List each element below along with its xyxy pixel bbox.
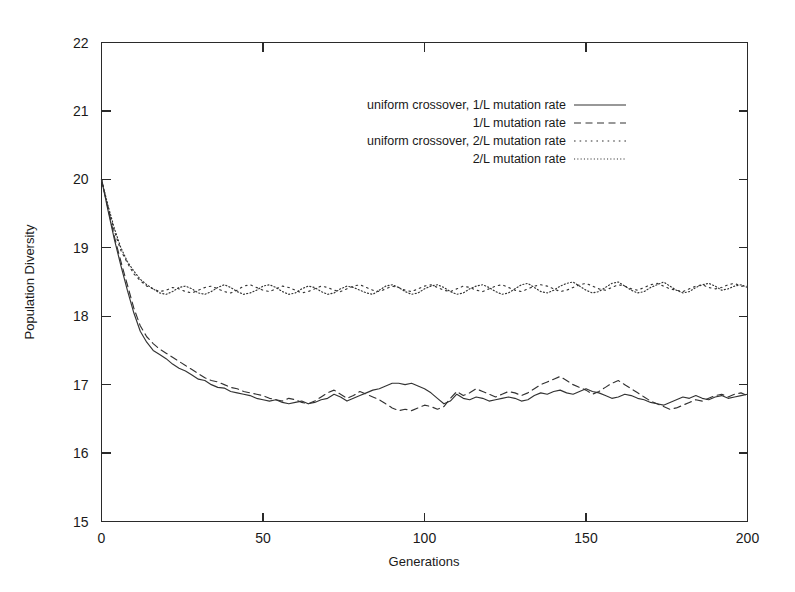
legend-label-3: 2/L mutation rate: [473, 152, 566, 166]
legend-label-2: uniform crossover, 2/L mutation rate: [367, 134, 566, 148]
y-tick-label: 16: [73, 445, 89, 461]
chart-background: [0, 0, 795, 592]
y-tick-label: 18: [73, 308, 89, 324]
x-tick-label: 50: [255, 530, 271, 546]
y-tick-label: 19: [73, 240, 89, 256]
chart-figure: 1516171819202122 050100150200 uniform cr…: [0, 0, 795, 592]
y-tick-label: 20: [73, 171, 89, 187]
x-axis-label: Generations: [389, 554, 460, 569]
x-tick-label: 0: [98, 530, 106, 546]
x-tick-label: 100: [413, 530, 437, 546]
y-axis-label: Population Diversity: [22, 224, 37, 339]
y-tick-label: 15: [73, 514, 89, 530]
x-tick-label: 150: [574, 530, 598, 546]
population-diversity-line-chart: 1516171819202122 050100150200 uniform cr…: [0, 0, 795, 592]
y-tick-label: 17: [73, 377, 89, 393]
y-tick-label: 22: [73, 35, 89, 51]
y-tick-label: 21: [73, 103, 89, 119]
x-tick-label: 200: [736, 530, 760, 546]
legend-label-0: uniform crossover, 1/L mutation rate: [367, 98, 566, 112]
legend-label-1: 1/L mutation rate: [473, 116, 566, 130]
